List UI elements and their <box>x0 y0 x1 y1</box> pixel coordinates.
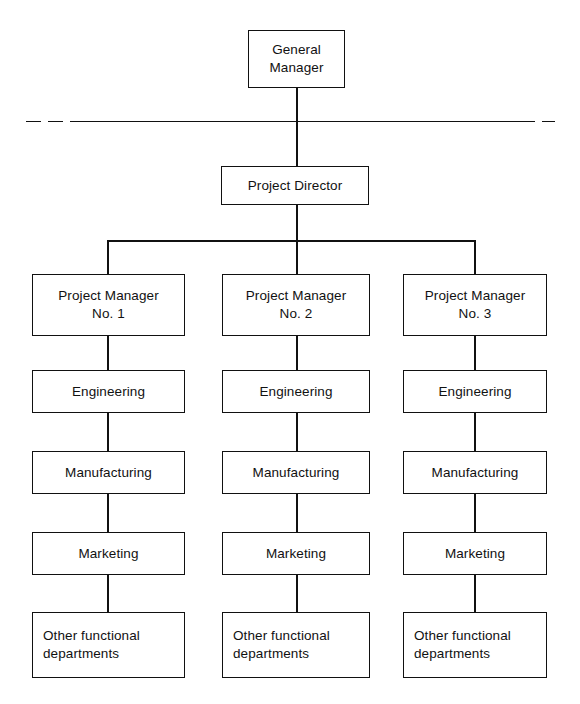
separator-dash-left-1 <box>26 121 41 122</box>
connector-col3-manufacturing-to-marketing <box>474 494 476 533</box>
connector-col3-pm-to-engineering <box>474 336 476 371</box>
connector-col1-manufacturing-to-marketing <box>107 494 109 533</box>
node-col2-marketing: Marketing <box>222 532 370 575</box>
separator-dash-right-1 <box>520 121 535 122</box>
connector-col2-marketing-to-other <box>296 575 298 613</box>
connector-col2-pm-to-engineering <box>296 336 298 371</box>
connector-gm-to-director <box>296 88 298 166</box>
connector-director-to-bus <box>296 205 298 241</box>
node-project-director: Project Director <box>221 166 369 205</box>
separator-line-solid <box>70 121 535 122</box>
node-project-manager-1: Project Manager No. 1 <box>32 274 185 336</box>
node-col1-other-functional-departments: Other functional departments <box>32 612 185 678</box>
connector-bus-horizontal <box>107 240 475 242</box>
org-chart-diagram: General Manager Project Director Project… <box>0 0 580 704</box>
node-col3-manufacturing: Manufacturing <box>403 451 547 494</box>
node-col1-marketing: Marketing <box>32 532 185 575</box>
connector-bus-drop-col1 <box>107 240 109 274</box>
node-col3-marketing: Marketing <box>403 532 547 575</box>
node-project-manager-2: Project Manager No. 2 <box>222 274 370 336</box>
node-col3-engineering: Engineering <box>403 370 547 413</box>
node-general-manager: General Manager <box>248 30 345 88</box>
node-col3-other-functional-departments: Other functional departments <box>403 612 547 678</box>
separator-dash-left-2 <box>48 121 63 122</box>
connector-col1-engineering-to-manufacturing <box>107 413 109 452</box>
node-project-manager-3: Project Manager No. 3 <box>403 274 547 336</box>
connector-col1-pm-to-engineering <box>107 336 109 371</box>
connector-col3-engineering-to-manufacturing <box>474 413 476 452</box>
node-col2-other-functional-departments: Other functional departments <box>222 612 370 678</box>
connector-col1-marketing-to-other <box>107 575 109 613</box>
separator-dash-right-2 <box>542 121 555 122</box>
connector-col2-engineering-to-manufacturing <box>296 413 298 452</box>
node-col1-manufacturing: Manufacturing <box>32 451 185 494</box>
connector-bus-drop-col2 <box>296 240 298 274</box>
node-col1-engineering: Engineering <box>32 370 185 413</box>
node-col2-manufacturing: Manufacturing <box>222 451 370 494</box>
connector-col2-manufacturing-to-marketing <box>296 494 298 533</box>
connector-bus-drop-col3 <box>474 240 476 274</box>
connector-col3-marketing-to-other <box>474 575 476 613</box>
node-col2-engineering: Engineering <box>222 370 370 413</box>
